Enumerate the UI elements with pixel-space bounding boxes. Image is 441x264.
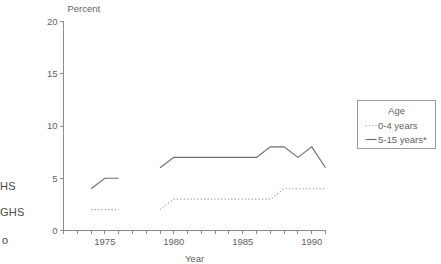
x-axis-tick-label: 1980	[163, 236, 184, 247]
legend-entry-label: 5-15 years*	[378, 134, 427, 145]
legend-entry-label: 0-4 years	[378, 120, 418, 131]
x-axis-tick-label: 1985	[232, 236, 253, 247]
line-chart: 051015201975198019851990PercentYear Age0…	[0, 0, 441, 264]
y-axis-tick-label: 15	[47, 68, 58, 79]
x-axis-tick-label: 1975	[94, 236, 115, 247]
legend-title: Age	[388, 105, 405, 116]
x-axis-title: Year	[185, 253, 204, 264]
plot-area	[91, 147, 325, 210]
series-line-5-15-years-	[91, 178, 119, 188]
y-axis-tick-label: 10	[47, 120, 58, 131]
axis-layer: 051015201975198019851990PercentYear	[47, 3, 326, 264]
series-line-0-4-years	[160, 189, 325, 210]
legend: Age0-4 years5-15 years*	[358, 101, 436, 149]
y-axis-title: Percent	[68, 3, 101, 14]
series-line-5-15-years-	[160, 147, 325, 168]
y-axis-tick-label: 5	[52, 173, 57, 184]
y-axis-tick-label: 0	[52, 225, 57, 236]
y-axis-tick-label: 20	[47, 16, 58, 27]
x-axis-tick-label: 1990	[301, 236, 322, 247]
